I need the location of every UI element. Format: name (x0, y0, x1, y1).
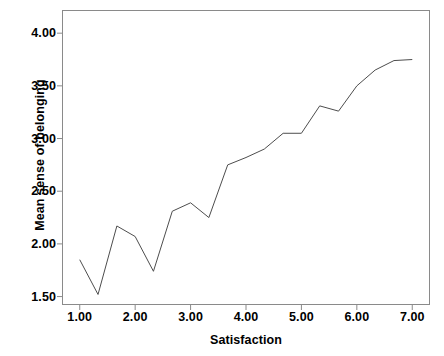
y-axis-title: Mean sense of belonging (33, 30, 47, 280)
x-axis-title: Satisfaction (62, 333, 430, 347)
x-tick-label: 4.00 (216, 311, 276, 324)
y-axis-tick-labels: 1.502.002.503.003.504.00 (8, 0, 56, 356)
x-tick-label: 5.00 (271, 311, 331, 324)
line-chart: 1.502.002.503.003.504.00 Mean sense of b… (0, 0, 444, 356)
x-tick-label: 1.00 (50, 311, 110, 324)
x-tick-label: 2.00 (105, 311, 165, 324)
y-tick-label: 1.50 (12, 290, 56, 303)
x-tick-label: 6.00 (327, 311, 387, 324)
x-tick-label: 3.00 (161, 311, 221, 324)
x-tick-label: 7.00 (382, 311, 442, 324)
plot-area-frame (62, 10, 430, 305)
